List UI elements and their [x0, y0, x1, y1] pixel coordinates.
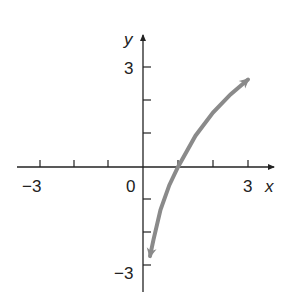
origin-label: 0	[126, 177, 135, 196]
y-tick-label-3: 3	[124, 59, 133, 78]
y-axis-label: y	[123, 30, 134, 49]
function-curve	[150, 80, 248, 257]
x-tick-label-3: 3	[243, 177, 252, 196]
function-graph: y x 3 −3 −3 0 3	[0, 0, 286, 301]
x-ticks	[40, 160, 248, 167]
y-ticks	[143, 67, 151, 265]
x-axis-label: x	[264, 177, 274, 196]
y-tick-label-neg3: −3	[114, 264, 133, 283]
x-tick-label-neg3: −3	[22, 177, 41, 196]
